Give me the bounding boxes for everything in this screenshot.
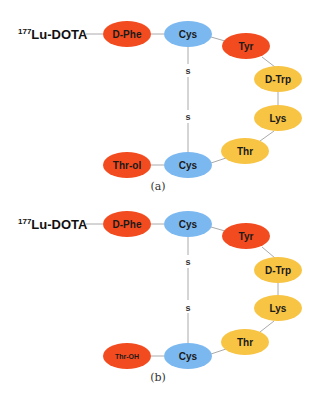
sulfur-label: s: [185, 66, 190, 76]
node-cys-top: Cys: [164, 211, 212, 237]
link-tyr-dtrp: [262, 247, 275, 258]
svg-text:Lys: Lys: [270, 113, 287, 124]
svg-text:Cys: Cys: [179, 351, 198, 362]
svg-text:Thr-ol: Thr-ol: [113, 160, 142, 171]
node-thr: Thr: [221, 138, 269, 164]
node-dtrp: D-Trp: [254, 257, 302, 283]
svg-text:Tyr: Tyr: [239, 231, 254, 242]
svg-text:Cys: Cys: [179, 219, 198, 230]
svg-text:Lys: Lys: [270, 303, 287, 314]
panel-a: 177Lu-DOTA D-Phe Cys Tyr D-Trp Lys Thr C…: [18, 21, 302, 193]
node-throh: Thr-OH: [103, 343, 151, 369]
node-cys-top: Cys: [164, 21, 212, 47]
chelator-label: 177Lu-DOTA: [18, 27, 88, 42]
node-thr: Thr: [221, 329, 269, 355]
node-tyr: Tyr: [222, 223, 270, 249]
link-thr-cys: [211, 158, 226, 163]
svg-text:D-Trp: D-Trp: [265, 265, 291, 276]
node-lys: Lys: [254, 105, 302, 131]
node-dphe: D-Phe: [103, 211, 151, 237]
peptide-diagram: 177Lu-DOTA D-Phe Cys Tyr D-Trp Lys Thr C…: [0, 0, 320, 399]
link-cys-tyr: [211, 37, 225, 41]
node-tyr: Tyr: [222, 33, 270, 59]
svg-text:Thr: Thr: [237, 146, 253, 157]
svg-text:Thr-OH: Thr-OH: [115, 353, 139, 360]
caption-b: (b): [150, 371, 166, 384]
svg-text:Thr: Thr: [237, 337, 253, 348]
svg-text:D-Trp: D-Trp: [265, 74, 291, 85]
node-dphe: D-Phe: [103, 21, 151, 47]
sulfur-label: s: [185, 303, 190, 313]
caption-a: (a): [150, 180, 165, 193]
link-lys-thr: [260, 131, 274, 141]
svg-text:D-Phe: D-Phe: [113, 29, 142, 40]
node-lys: Lys: [254, 295, 302, 321]
node-cys-bottom: Cys: [164, 343, 212, 369]
sulfur-label: s: [185, 257, 190, 267]
svg-text:Cys: Cys: [179, 160, 198, 171]
panel-b: 177Lu-DOTA D-Phe Cys Tyr D-Trp Lys Thr C…: [18, 211, 302, 384]
link-tyr-dtrp: [262, 57, 275, 67]
svg-text:Tyr: Tyr: [239, 41, 254, 52]
sulfur-label: s: [185, 112, 190, 122]
link-lys-thr: [260, 321, 274, 332]
chelator-label: 177Lu-DOTA: [18, 217, 88, 232]
svg-text:Cys: Cys: [179, 29, 198, 40]
node-throl: Thr-ol: [103, 152, 151, 178]
node-dtrp: D-Trp: [254, 66, 302, 92]
svg-text:D-Phe: D-Phe: [113, 219, 142, 230]
link-cys-tyr: [211, 227, 225, 231]
node-cys-bottom: Cys: [164, 152, 212, 178]
link-thr-cys: [211, 349, 226, 354]
